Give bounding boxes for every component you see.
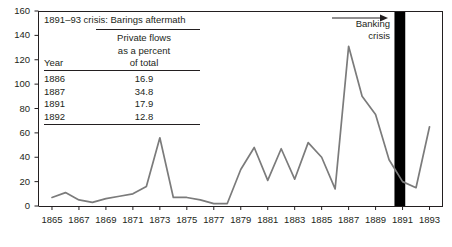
inset-cell-value: 17.9 [96, 98, 192, 110]
inset-cell-value: 16.9 [96, 73, 192, 85]
inset-table-header-row: Year Private flows as a percent of total [44, 31, 200, 69]
chart-figure: 020406080100120140160 186518671869187118… [0, 0, 452, 247]
y-tick-label: 0 [0, 201, 30, 211]
banking-crisis-label: Banking crisis [332, 18, 390, 42]
y-tick-label: 120 [0, 55, 30, 65]
y-tick-label: 160 [0, 6, 30, 16]
inset-cell-value: 34.8 [96, 86, 192, 98]
inset-header-value-line3: of total [96, 57, 192, 69]
inset-cell-year: 1892 [44, 111, 96, 123]
y-tick-label: 140 [0, 30, 30, 40]
inset-rule-top [96, 29, 200, 30]
inset-header-year: Year [44, 57, 96, 69]
inset-rule-bottom [44, 124, 200, 125]
banking-crisis-label-line2: crisis [332, 30, 390, 42]
inset-cell-year: 1891 [44, 98, 96, 110]
inset-table-row: 188734.8 [44, 85, 200, 98]
y-tick-label: 20 [0, 177, 30, 187]
inset-table-row: 188616.9 [44, 72, 200, 85]
y-tick-label: 80 [0, 104, 30, 114]
x-tick-label: 1893 [410, 215, 450, 225]
inset-table-body: 188616.9188734.8189117.9189212.8 [44, 72, 200, 123]
banking-crisis-label-line1: Banking [332, 18, 390, 30]
inset-rule-mid [44, 70, 200, 71]
inset-header-value-line2: as a percent [96, 45, 192, 57]
inset-table-row: 189212.8 [44, 110, 200, 123]
inset-cell-value: 12.8 [96, 111, 192, 123]
y-tick-marks [35, 11, 39, 206]
y-tick-label: 40 [0, 152, 30, 162]
inset-table-title: 1891–93 crisis: Barings aftermath [44, 14, 192, 28]
inset-cell-year: 1886 [44, 73, 96, 85]
inset-header-value: Private flows as a percent of total [96, 32, 192, 69]
y-tick-label: 60 [0, 128, 30, 138]
inset-header-value-line1: Private flows [96, 32, 192, 44]
y-tick-label: 100 [0, 79, 30, 89]
inset-cell-year: 1887 [44, 86, 96, 98]
inset-data-table: 1891–93 crisis: Barings aftermath Year P… [44, 14, 200, 126]
inset-table-row: 189117.9 [44, 98, 200, 111]
